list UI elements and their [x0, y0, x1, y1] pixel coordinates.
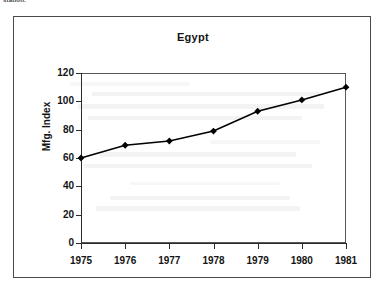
data-point-marker	[210, 128, 217, 135]
data-point-marker	[122, 142, 129, 149]
series-marker-group	[78, 84, 350, 162]
data-point-marker	[78, 155, 85, 162]
data-point-marker	[298, 97, 305, 104]
data-point-marker	[166, 138, 173, 145]
chart-figure-box: Egypt Mfg. Index 120 100 80 60 40 20 0 1…	[13, 16, 371, 278]
data-point-marker	[254, 108, 261, 115]
series-line-mfg-index	[81, 87, 346, 158]
data-point-marker	[343, 84, 350, 91]
clipped-page-header: station.	[3, 0, 26, 4]
data-series-layer	[14, 17, 372, 279]
